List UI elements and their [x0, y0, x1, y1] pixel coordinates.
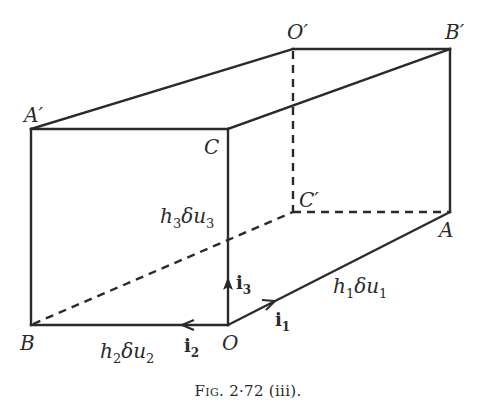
unit-vector-i3: i3: [236, 274, 251, 296]
unit-vector-i1: i1: [275, 311, 290, 333]
edge-o-a: [228, 212, 450, 325]
h2-base: h: [100, 339, 113, 363]
h2-du: δu: [121, 339, 146, 363]
vertex-label-c: C: [204, 137, 219, 157]
h3-du-sub: 3: [206, 216, 214, 231]
h2-sub: 2: [113, 351, 121, 366]
vertex-label-a: A: [439, 220, 453, 240]
h1-base: h: [333, 274, 346, 298]
vertex-label-o: O: [222, 333, 238, 353]
vertex-label-b-prime: B′: [445, 22, 464, 42]
h2-du-sub: 2: [146, 351, 154, 366]
vertex-label-a-prime: A′: [24, 105, 43, 125]
h3-sub: 3: [173, 216, 181, 231]
edge-length-h1-du1: h1δu1: [333, 276, 387, 300]
caption-number: 2·72 (iii).: [229, 382, 301, 400]
i3-sub: 3: [243, 283, 251, 297]
h3-base: h: [160, 204, 173, 228]
h1-du-sub: 1: [379, 286, 387, 301]
edge-length-h3-du3: h3δu3: [160, 206, 214, 230]
caption-prefix: Fig.: [195, 382, 225, 400]
figure-caption: Fig. 2·72 (iii).: [0, 382, 496, 400]
vertex-label-b: B: [20, 333, 35, 353]
edge-c-b-prime: [228, 49, 450, 129]
i1-base: i: [275, 309, 282, 330]
edge-a-prime-o-prime: [31, 49, 293, 129]
i2-sub: 2: [191, 346, 199, 360]
curvilinear-volume-element-diagram: [0, 0, 496, 410]
i1-sub: 1: [282, 320, 290, 334]
h1-sub: 1: [346, 286, 354, 301]
i3-base: i: [236, 272, 243, 293]
edge-length-h2-du2: h2δu2: [100, 341, 154, 365]
vertex-label-o-prime: O′: [287, 22, 308, 42]
h1-du: δu: [354, 274, 379, 298]
h3-du: δu: [181, 204, 206, 228]
unit-vector-i2: i2: [184, 337, 199, 359]
vertex-label-c-prime: C′: [299, 190, 319, 210]
i2-base: i: [184, 335, 191, 356]
